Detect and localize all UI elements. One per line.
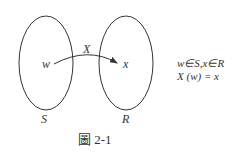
mapping-equation: X (w) = x [177,71,219,82]
set-r-label: R [122,113,129,125]
figure-caption: 圖 2-1 [78,133,112,146]
element-x-label: x [123,58,128,70]
membership-note: w∈S,x∈R [177,58,224,69]
set-s-label: S [41,113,47,125]
mapping-label-x: X [83,43,90,55]
mapping-arrow [54,55,117,64]
diagram-canvas: X w x S R w∈S,x∈R X (w) = x 圖 2-1 [0,0,235,152]
element-w-label: w [42,58,50,70]
